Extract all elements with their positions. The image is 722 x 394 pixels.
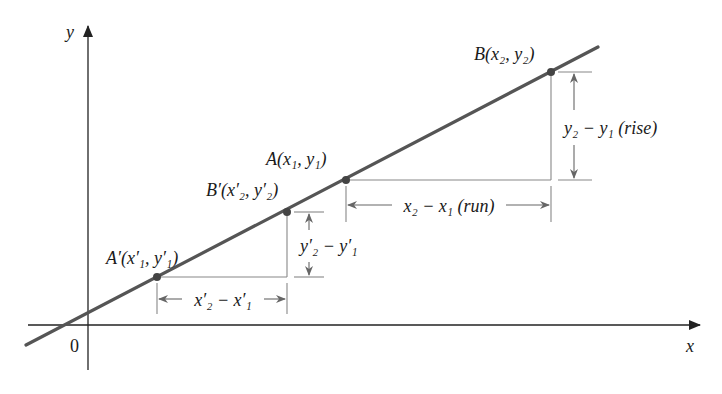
label-b-prime: B′(x′₂, y′₂) bbox=[206, 180, 278, 201]
slope-diagram: x y 0 bbox=[0, 0, 722, 394]
run-prime-label: x′₂ − x′₁ bbox=[193, 290, 252, 310]
x-axis-label: x bbox=[685, 336, 694, 356]
axes: x y 0 bbox=[28, 22, 700, 370]
label-a: A(x₁, y₁) bbox=[265, 149, 326, 170]
origin-label: 0 bbox=[70, 336, 79, 356]
diagram-canvas: x y 0 bbox=[0, 0, 722, 394]
run-label: x₂ − x₁ (run) bbox=[402, 196, 494, 217]
point-b bbox=[547, 68, 555, 76]
point-b-prime bbox=[283, 208, 291, 216]
label-a-prime: A′(x′₁, y′₁) bbox=[105, 248, 178, 269]
rise-label: y₂ − y₁ (rise) bbox=[562, 118, 657, 139]
label-b: B(x₂, y₂) bbox=[474, 44, 534, 65]
dimension-labels: x₂ − x₁ (run) y₂ − y₁ (rise) x′₂ − x′₁ y… bbox=[193, 118, 657, 310]
point-a bbox=[342, 176, 350, 184]
point-a-prime bbox=[153, 273, 161, 281]
slope-line bbox=[26, 47, 598, 345]
y-axis-label: y bbox=[64, 22, 74, 42]
rise-prime-label: y′₂ − y′₁ bbox=[298, 236, 358, 256]
